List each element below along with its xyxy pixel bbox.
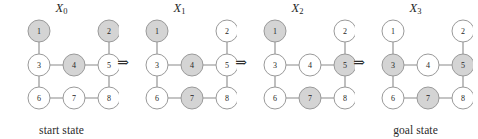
panel-title-x3: X3 xyxy=(358,1,473,16)
graph-node-4: 4 xyxy=(63,54,85,76)
node-label-1: 1 xyxy=(37,27,41,36)
node-label-7: 7 xyxy=(72,94,76,103)
graph-node-2: 2 xyxy=(334,20,355,42)
panel-title-x0: X0 xyxy=(4,1,119,16)
node-label-8: 8 xyxy=(107,94,111,103)
node-label-6: 6 xyxy=(155,94,159,103)
graph-node-8: 8 xyxy=(216,87,237,109)
node-label-4: 4 xyxy=(72,61,76,70)
transition-arrow-1: ⇒ xyxy=(112,56,134,70)
node-label-2: 2 xyxy=(225,27,229,36)
node-label-7: 7 xyxy=(190,94,194,103)
panel-caption-x3: goal state xyxy=(358,124,473,136)
graph-node-3: 3 xyxy=(382,54,404,76)
graph-node-3: 3 xyxy=(28,54,50,76)
graph-node-6: 6 xyxy=(146,87,168,109)
node-label-7: 7 xyxy=(426,94,430,103)
state-graph-x3: 12345678 xyxy=(358,17,473,117)
graph-node-7: 7 xyxy=(181,87,203,109)
state-graph-x0: 12345678 xyxy=(4,17,119,117)
node-label-6: 6 xyxy=(273,94,277,103)
graph-node-2: 2 xyxy=(452,20,473,42)
graph-node-7: 7 xyxy=(63,87,85,109)
node-label-2: 2 xyxy=(343,27,347,36)
graph-node-1: 1 xyxy=(382,20,404,42)
state-graph-x2: 12345678 xyxy=(240,17,355,117)
state-graph-x1: 12345678 xyxy=(122,17,237,117)
node-label-8: 8 xyxy=(461,94,465,103)
node-label-1: 1 xyxy=(391,27,395,36)
graph-node-3: 3 xyxy=(146,54,168,76)
panel-title-subscript: 3 xyxy=(417,6,421,16)
graph-node-6: 6 xyxy=(382,87,404,109)
node-label-2: 2 xyxy=(107,27,111,36)
graph-node-1: 1 xyxy=(146,20,168,42)
panel-title-subscript: 1 xyxy=(181,6,185,16)
graph-node-6: 6 xyxy=(264,87,286,109)
node-label-8: 8 xyxy=(225,94,229,103)
panel-title-subscript: 2 xyxy=(299,6,303,16)
node-label-3: 3 xyxy=(391,61,395,70)
node-label-3: 3 xyxy=(37,61,41,70)
node-label-3: 3 xyxy=(273,61,277,70)
graph-node-2: 2 xyxy=(216,20,237,42)
node-label-4: 4 xyxy=(426,61,430,70)
graph-node-1: 1 xyxy=(28,20,50,42)
node-label-5: 5 xyxy=(461,61,465,70)
state-transition-figure: X012345678start stateX112345678X21234567… xyxy=(0,0,478,139)
node-label-7: 7 xyxy=(308,94,312,103)
node-label-3: 3 xyxy=(155,61,159,70)
graph-node-4: 4 xyxy=(299,54,321,76)
graph-node-8: 8 xyxy=(98,87,119,109)
node-label-5: 5 xyxy=(343,61,347,70)
panel-caption-x0: start state xyxy=(4,124,119,136)
transition-arrow-3: ⇒ xyxy=(348,56,370,70)
node-label-6: 6 xyxy=(37,94,41,103)
graph-node-8: 8 xyxy=(452,87,473,109)
graph-node-7: 7 xyxy=(299,87,321,109)
state-panel-x1: X112345678 xyxy=(122,0,237,139)
panel-title-x1: X1 xyxy=(122,1,237,16)
node-label-4: 4 xyxy=(308,61,312,70)
graph-node-1: 1 xyxy=(264,20,286,42)
state-panel-x2: X212345678 xyxy=(240,0,355,139)
graph-node-8: 8 xyxy=(334,87,355,109)
graph-node-2: 2 xyxy=(98,20,119,42)
node-label-1: 1 xyxy=(155,27,159,36)
node-label-4: 4 xyxy=(190,61,194,70)
node-label-5: 5 xyxy=(225,61,229,70)
state-panel-x3: X312345678goal state xyxy=(358,0,473,139)
panel-title-subscript: 0 xyxy=(63,6,67,16)
graph-node-4: 4 xyxy=(181,54,203,76)
node-label-6: 6 xyxy=(391,94,395,103)
node-label-1: 1 xyxy=(273,27,277,36)
graph-node-5: 5 xyxy=(452,54,473,76)
state-panel-x0: X012345678start state xyxy=(4,0,119,139)
transition-arrow-2: ⇒ xyxy=(230,56,252,70)
graph-node-6: 6 xyxy=(28,87,50,109)
node-label-5: 5 xyxy=(107,61,111,70)
graph-node-7: 7 xyxy=(417,87,439,109)
graph-node-4: 4 xyxy=(417,54,439,76)
node-label-2: 2 xyxy=(461,27,465,36)
node-label-8: 8 xyxy=(343,94,347,103)
panel-title-x2: X2 xyxy=(240,1,355,16)
graph-node-3: 3 xyxy=(264,54,286,76)
